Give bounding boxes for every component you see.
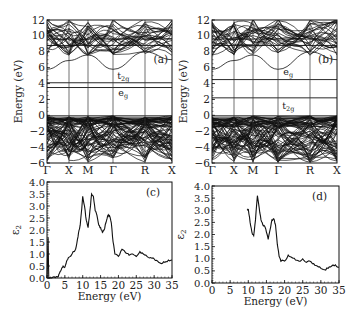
band-lines (212, 19, 337, 162)
epsilon2-curve (47, 194, 172, 278)
y-tick-label: −2 (30, 125, 45, 137)
y-tick-label: 4.0 (194, 181, 210, 192)
y-tick-label: 1.0 (29, 249, 45, 260)
y-tick-label: 8 (38, 45, 45, 57)
y-tick-label: 8 (203, 45, 210, 57)
y-tick-label: 3.0 (194, 205, 210, 216)
x-tick-label: 35 (332, 284, 345, 296)
x-tick-label: 35 (165, 279, 178, 291)
panel-label: (c) (146, 186, 160, 198)
k-point-label: R (306, 164, 315, 177)
y-tick-label: 12 (32, 14, 45, 26)
x-tick-label: 30 (314, 284, 327, 296)
y-tick-label: 1.5 (29, 237, 45, 248)
panel-label: (a) (154, 53, 168, 65)
band-label: eg (118, 87, 128, 100)
y-tick-label: 2.5 (194, 217, 210, 228)
y-tick-label: 6 (38, 61, 45, 73)
x-tick-label: 5 (62, 279, 69, 291)
y-tick-label: 10 (32, 29, 45, 41)
y-tick-label: 0 (38, 109, 45, 121)
band-structure-panel-b: 121086420−2−4−6ΓXMΓRXEnergy (eV)(b)egt2g (177, 14, 341, 178)
band-lines (47, 19, 172, 162)
k-point-label: Γ (109, 164, 117, 177)
y-axis-label: Energy (eV) (12, 60, 24, 124)
y-tick-label: 6 (203, 61, 210, 73)
x-tick-label: 0 (209, 284, 216, 296)
band-label: t2g (282, 100, 294, 113)
epsilon2-panel-d: 4.03.53.02.52.01.51.00.50.00510152025303… (174, 181, 346, 308)
y-tick-label: 0 (203, 109, 210, 121)
k-point-label: M (82, 164, 93, 177)
y-tick-label: 12 (197, 14, 210, 26)
panel-label: (b) (318, 53, 333, 65)
k-point-label: X (333, 164, 341, 177)
k-point-label: X (168, 164, 176, 177)
x-axis-label: Energy (eV) (244, 295, 308, 307)
y-tick-label: 2.0 (194, 229, 210, 240)
x-tick-label: 30 (147, 279, 160, 291)
y-tick-label: −2 (195, 125, 210, 137)
epsilon2-curve (247, 196, 339, 270)
y-tick-label: 10 (197, 29, 210, 41)
k-point-label: X (65, 164, 73, 177)
k-point-label: X (230, 164, 238, 177)
y-tick-label: 0.0 (29, 273, 45, 284)
y-axis-label: ε2 (174, 230, 188, 240)
y-tick-label: 3.0 (29, 201, 45, 212)
y-tick-label: −4 (30, 141, 46, 153)
band-structure-panel-a: 121086420−2−4−6ΓXMΓRXEnergy (eV)(a)t2geg (12, 14, 176, 178)
x-tick-label: 0 (44, 279, 51, 291)
y-tick-label: 3.5 (194, 193, 210, 204)
y-tick-label: 4.0 (29, 177, 45, 188)
x-axis-label: Energy (eV) (78, 290, 142, 302)
y-tick-label: 0.5 (194, 265, 210, 276)
y-tick-label: 2.5 (29, 213, 45, 224)
y-tick-label: 3.5 (29, 189, 45, 200)
y-tick-label: 1.0 (194, 253, 210, 264)
k-point-label: R (141, 164, 150, 177)
y-tick-label: 4 (38, 77, 45, 89)
y-axis-label: Energy (eV) (177, 60, 189, 124)
panel-label: (d) (312, 190, 327, 202)
x-tick-label: 5 (227, 284, 234, 296)
band-label: t2g (117, 70, 129, 83)
y-tick-label: 4 (203, 77, 210, 89)
y-tick-label: −4 (195, 141, 211, 153)
y-tick-label: 0.5 (29, 261, 45, 272)
y-tick-label: 2 (38, 93, 45, 105)
y-tick-label: 0.0 (194, 278, 210, 289)
epsilon2-panel-c: 4.03.53.02.52.01.51.00.50.00510152025303… (9, 177, 179, 303)
k-point-label: Γ (208, 164, 216, 177)
k-point-label: Γ (274, 164, 282, 177)
band-label: eg (283, 66, 293, 79)
y-tick-label: 1.5 (194, 241, 210, 252)
figure: 121086420−2−4−6ΓXMΓRXEnergy (eV)(a)t2geg… (0, 0, 362, 322)
y-tick-label: 2 (203, 93, 210, 105)
k-point-label: M (247, 164, 258, 177)
y-tick-label: 2.0 (29, 225, 45, 236)
k-point-label: Γ (43, 164, 51, 177)
y-axis-label: ε2 (9, 225, 23, 235)
